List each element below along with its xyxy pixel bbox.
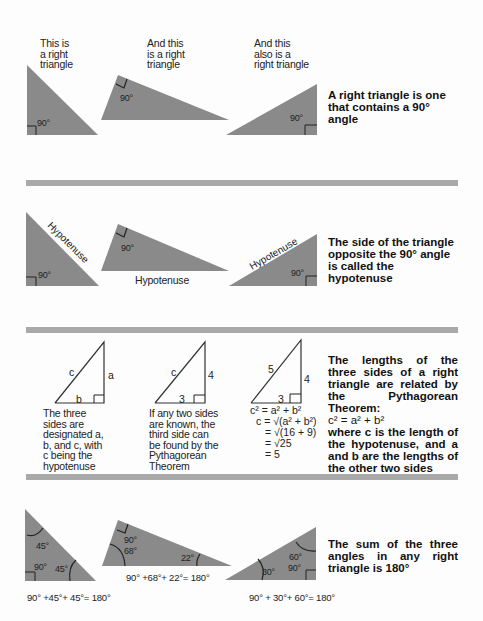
angle-triangle-2 <box>102 520 232 566</box>
angle-label: 45° <box>36 541 49 552</box>
angle-label: 90° <box>288 563 301 574</box>
equation: 90° + 30°+ 60°= 180° <box>249 593 335 604</box>
equation: 90° +45°+ 45°= 180° <box>27 593 111 604</box>
angle-label: 60° <box>289 552 302 563</box>
angle-label: 30° <box>262 567 275 578</box>
angle-label: 90° <box>124 535 137 546</box>
equation: 90° +68°+ 22°= 180° <box>126 573 210 584</box>
angle-label: 45° <box>55 564 68 575</box>
angle-label: 90° <box>34 562 47 573</box>
description-angle-sum: The sum of the three angles in any right… <box>328 538 458 574</box>
angle-label: 22° <box>181 553 194 564</box>
section-4-diagram <box>0 0 483 621</box>
angle-label: 68° <box>124 546 137 557</box>
